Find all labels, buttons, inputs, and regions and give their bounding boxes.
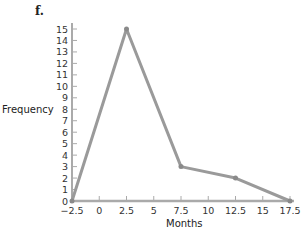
x-tick-label: 17.5 bbox=[279, 205, 300, 216]
frequency-polygon-chart: 0123456789101112131415−2.502.557.51012.5… bbox=[0, 0, 304, 238]
x-tick-label: 0 bbox=[96, 205, 102, 216]
y-tick-label: 6 bbox=[62, 127, 68, 138]
y-tick-label: 7 bbox=[62, 115, 68, 126]
y-tick-label: 11 bbox=[56, 69, 68, 80]
x-tick-label: −2.5 bbox=[60, 205, 83, 216]
x-tick-label: 2.5 bbox=[119, 205, 134, 216]
x-tick-label: 12.5 bbox=[225, 205, 246, 216]
x-tick-label: 10 bbox=[202, 205, 214, 216]
x-tick-label: 5 bbox=[151, 205, 157, 216]
y-tick-label: 1 bbox=[62, 184, 68, 195]
y-tick-label: 13 bbox=[56, 46, 68, 57]
data-point bbox=[124, 27, 129, 32]
y-tick-label: 9 bbox=[62, 92, 68, 103]
y-tick-label: 8 bbox=[62, 104, 68, 115]
data-point bbox=[179, 164, 184, 169]
y-tick-label: 5 bbox=[62, 138, 68, 149]
y-tick-label: 15 bbox=[56, 24, 68, 35]
data-point bbox=[70, 199, 75, 204]
x-tick-label: 15 bbox=[257, 205, 269, 216]
y-tick-label: 4 bbox=[62, 150, 68, 161]
y-tick-label: 3 bbox=[62, 161, 68, 172]
data-point bbox=[288, 199, 293, 204]
data-point bbox=[233, 176, 238, 181]
frequency-line bbox=[72, 29, 290, 201]
y-tick-label: 12 bbox=[56, 58, 68, 69]
y-tick-label: 14 bbox=[56, 35, 68, 46]
x-tick-label: 7.5 bbox=[173, 205, 188, 216]
y-tick-label: 2 bbox=[62, 173, 68, 184]
y-tick-label: 10 bbox=[56, 81, 68, 92]
